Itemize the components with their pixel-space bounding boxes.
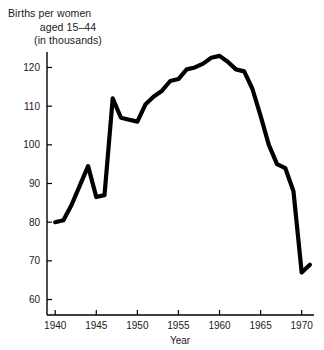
y-axis-ticks (47, 67, 52, 299)
x-axis-tick-label: 1955 (167, 320, 190, 331)
x-axis-tick-labels: 1940194519501955196019651970 (44, 320, 313, 331)
y-axis-tick-label: 70 (29, 255, 41, 266)
y-axis-tick-label: 100 (23, 139, 40, 150)
y-axis-tick-label: 120 (23, 62, 40, 73)
y-axis-tick-labels: 60708090100110120 (23, 62, 40, 305)
y-axis-tick-label: 90 (29, 178, 41, 189)
x-axis-tick-label: 1960 (208, 320, 231, 331)
x-axis-title: Year (170, 335, 191, 346)
data-series-line (55, 56, 310, 273)
x-axis-tick-label: 1945 (85, 320, 108, 331)
y-axis-tick-label: 110 (24, 101, 40, 112)
chart-container: Births per women aged 15–44 (in thousand… (0, 0, 324, 350)
x-axis-tick-label: 1970 (291, 320, 314, 331)
x-axis-tick-label: 1940 (44, 320, 67, 331)
x-axis-tick-label: 1950 (126, 320, 149, 331)
x-axis-ticks (55, 310, 301, 315)
chart-svg: 60708090100110120 1940194519501955196019… (0, 0, 324, 350)
y-axis-tick-label: 80 (29, 217, 41, 228)
x-axis-tick-label: 1965 (249, 320, 272, 331)
y-axis-tick-label: 60 (29, 294, 41, 305)
